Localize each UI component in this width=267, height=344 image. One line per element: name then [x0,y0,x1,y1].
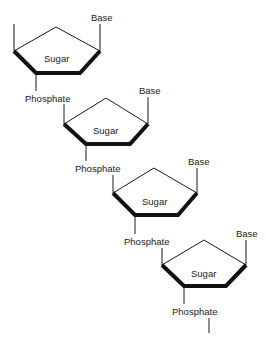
nucleotide-unit-4: Base Sugar Phosphate [162,228,258,333]
sugar-ring-top-edges [113,168,197,193]
base-label: Base [236,228,258,239]
nucleotide-unit-2: Base Sugar Phosphate [64,85,161,174]
phosphate-label: Phosphate [75,163,120,174]
base-label: Base [139,85,161,96]
dna-strand-diagram: Base Sugar Phosphate Base Sugar Phosphat… [0,0,267,344]
sugar-label: Sugar [93,125,118,136]
phosphate-label: Phosphate [25,93,70,104]
phosphate-label: Phosphate [124,236,169,247]
nucleotide-unit-1: Base Sugar Phosphate [14,12,113,104]
nucleotide-unit-3: Base Sugar Phosphate [113,156,210,247]
sugar-ring-top-edges [14,27,100,51]
phosphate-label: Phosphate [172,306,217,317]
sugar-label: Sugar [142,196,167,207]
sugar-ring-top-edges [64,98,148,124]
sugar-label: Sugar [44,53,69,64]
sugar-ring-top-edges [162,240,246,265]
sugar-label: Sugar [191,268,216,279]
base-label: Base [188,156,210,167]
base-label: Base [91,12,113,23]
